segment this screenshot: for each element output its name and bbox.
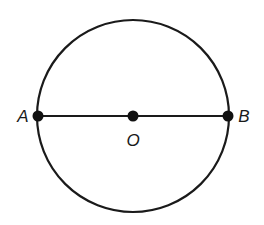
label-o: O — [126, 131, 139, 150]
point-a — [33, 111, 44, 122]
circle-diagram: A O B — [0, 0, 264, 225]
label-b: B — [238, 107, 249, 126]
point-b — [223, 111, 234, 122]
point-o-center — [128, 111, 139, 122]
label-a: A — [16, 107, 28, 126]
